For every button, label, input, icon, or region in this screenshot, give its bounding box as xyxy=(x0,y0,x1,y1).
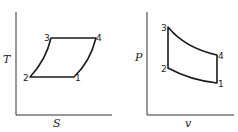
pv-cycle-path xyxy=(168,27,217,83)
thermo-cycle-figure: T S 1 2 3 4 P v 1 2 3 4 xyxy=(0,0,238,132)
ts-cycle-path xyxy=(30,38,96,77)
pv-point-3-label: 3 xyxy=(161,23,167,33)
pv-x-label: v xyxy=(185,117,192,130)
pv-point-4-label: 4 xyxy=(218,51,224,61)
ts-y-label: T xyxy=(3,53,12,66)
pv-diagram: P v 1 2 3 4 xyxy=(134,12,234,130)
ts-point-3-label: 3 xyxy=(44,33,50,43)
ts-point-1-label: 1 xyxy=(75,73,81,83)
pv-point-2-label: 2 xyxy=(161,64,167,74)
ts-diagram: T S 1 2 3 4 xyxy=(3,12,112,130)
ts-point-2-label: 2 xyxy=(23,73,29,83)
ts-point-4-label: 4 xyxy=(96,33,102,43)
ts-x-label: S xyxy=(53,117,61,130)
pv-y-label: P xyxy=(134,51,143,64)
pv-point-1-label: 1 xyxy=(218,79,224,89)
